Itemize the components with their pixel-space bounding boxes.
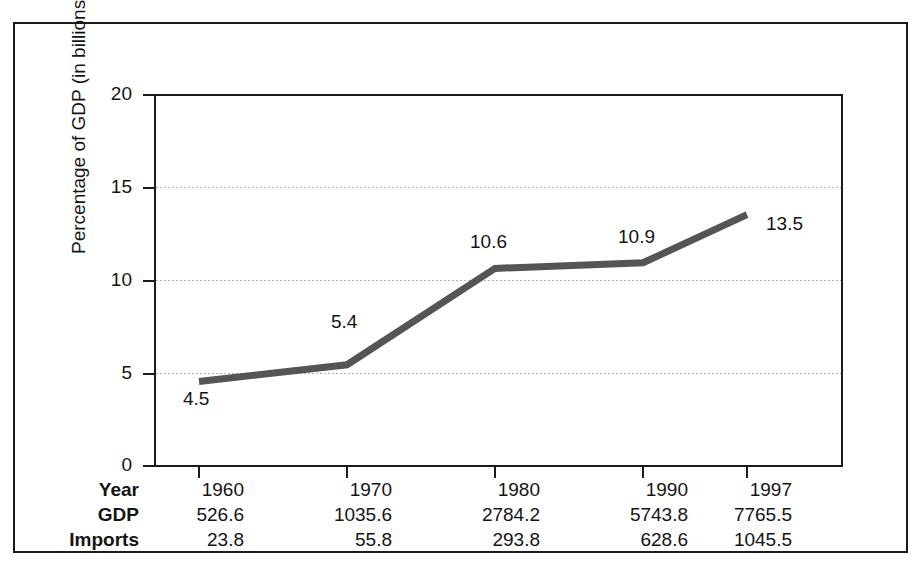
- cell-year-1960: 1960: [152, 479, 244, 501]
- cell-year-1990: 1990: [596, 479, 688, 501]
- cell-imports-1970: 55.8: [300, 529, 392, 551]
- y-tick-label-20: 20: [86, 84, 132, 103]
- cell-year-1980: 1980: [448, 479, 540, 501]
- series-line-imports-pct-gdp: [154, 94, 843, 467]
- cell-gdp-1990: 5743.8: [596, 504, 688, 526]
- table-row-gdp: GDP 526.6 1035.6 2784.2 5743.8 7765.5: [15, 504, 910, 529]
- plot-area: 20 15 10 5 0 Percentage of GDP (in billi…: [154, 94, 843, 467]
- table-row-year: Year 1960 1970 1980 1990 1997: [15, 479, 910, 504]
- y-tick-label-15: 15: [86, 177, 132, 196]
- cell-gdp-1980: 2784.2: [448, 504, 540, 526]
- point-label-1960: 4.5: [183, 389, 209, 408]
- x-tick-1970: [346, 467, 348, 478]
- row-label-gdp: GDP: [15, 504, 139, 526]
- cell-imports-1990: 628.6: [596, 529, 688, 551]
- cell-imports-1980: 293.8: [448, 529, 540, 551]
- data-table: Year 1960 1970 1980 1990 1997 GDP 526.6 …: [15, 479, 910, 555]
- row-label-year: Year: [15, 479, 139, 501]
- cell-imports-1997: 1045.5: [700, 529, 792, 551]
- y-axis-title: Percentage of GDP (in billions): [68, 0, 90, 254]
- point-label-1980: 10.6: [470, 232, 507, 251]
- y-tick-20: [143, 94, 154, 96]
- x-tick-1960: [198, 467, 200, 478]
- point-label-1970: 5.4: [331, 312, 357, 331]
- cell-gdp-1997: 7765.5: [700, 504, 792, 526]
- y-tick-label-0: 0: [86, 455, 132, 474]
- x-tick-1997: [746, 467, 748, 478]
- cell-year-1997: 1997: [700, 479, 792, 501]
- y-tick-15: [143, 187, 154, 189]
- x-tick-1980: [494, 467, 496, 478]
- cell-gdp-1970: 1035.6: [300, 504, 392, 526]
- y-tick-label-10: 10: [86, 270, 132, 289]
- y-tick-label-5: 5: [86, 363, 132, 382]
- point-label-1990: 10.9: [618, 227, 655, 246]
- cell-year-1970: 1970: [300, 479, 392, 501]
- cell-gdp-1960: 526.6: [152, 504, 244, 526]
- row-label-imports: Imports: [15, 529, 139, 551]
- x-tick-1990: [642, 467, 644, 478]
- y-tick-0: [143, 465, 154, 467]
- y-tick-10: [143, 280, 154, 282]
- y-tick-5: [143, 373, 154, 375]
- point-label-1997: 13.5: [766, 214, 803, 233]
- figure-frame: 20 15 10 5 0 Percentage of GDP (in billi…: [13, 22, 908, 553]
- table-row-imports: Imports 23.8 55.8 293.8 628.6 1045.5: [15, 529, 910, 554]
- cell-imports-1960: 23.8: [152, 529, 244, 551]
